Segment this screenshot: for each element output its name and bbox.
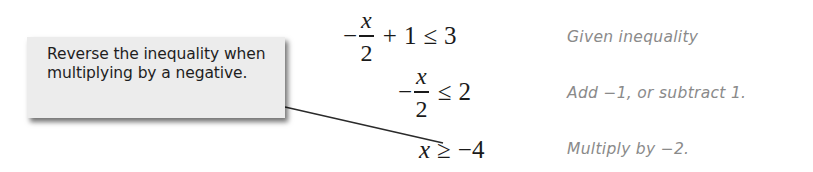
minus-sign: − <box>343 22 357 50</box>
relation-symbol: ≥ <box>437 136 451 164</box>
fraction-numerator: x <box>359 8 374 32</box>
rhs-value: 2 <box>459 78 472 106</box>
fraction-denominator: 2 <box>360 41 372 65</box>
fraction-numerator: x <box>414 64 429 88</box>
fraction: x 2 <box>414 64 429 121</box>
step-3-expression: x ≥ −4 <box>419 136 484 164</box>
step-1-expression: − x 2 + 1 ≤ 3 <box>343 8 457 65</box>
fraction: x 2 <box>359 8 374 65</box>
rhs-value: 3 <box>444 22 457 50</box>
minus-sign: − <box>398 78 412 106</box>
variable-x: x <box>419 136 430 164</box>
fraction-bar <box>414 91 429 93</box>
relation-symbol: ≤ <box>438 78 452 106</box>
step-2-expression: − x 2 ≤ 2 <box>398 64 471 121</box>
fraction-bar <box>359 35 374 37</box>
step-3-note: Multiply by −2. <box>567 140 689 158</box>
callout-box: Reverse the inequality when multiplying … <box>27 37 285 118</box>
step-1-note: Given inequality <box>567 28 698 46</box>
callout-text: Reverse the inequality when multiplying … <box>47 45 275 83</box>
fraction-denominator: 2 <box>415 97 427 121</box>
step-2-note: Add −1, or subtract 1. <box>567 84 746 102</box>
rhs-value: −4 <box>458 136 485 164</box>
constant: 1 <box>404 22 417 50</box>
plus-sign: + <box>383 22 397 50</box>
relation-symbol: ≤ <box>423 22 437 50</box>
